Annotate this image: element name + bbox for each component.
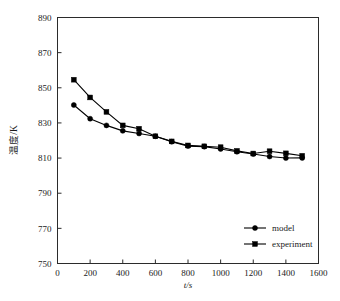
- y-tick-label: 890: [38, 13, 52, 23]
- data-point-model: [104, 123, 109, 128]
- data-point-experiment: [88, 95, 93, 100]
- x-axis-tick-labels: 02004006008001000120014001600: [55, 268, 328, 278]
- y-axis-title: 温度/K: [8, 125, 19, 155]
- x-tick-label: 800: [181, 268, 195, 278]
- legend-label-model: model: [272, 223, 295, 233]
- legend-circle-icon: [253, 226, 258, 231]
- legend-square-icon: [253, 242, 258, 247]
- x-tick-label: 400: [116, 268, 130, 278]
- data-point-experiment: [120, 123, 125, 128]
- data-point-model: [267, 154, 272, 159]
- temperature-vs-time-plot: 750770790810830850870890 020040060080010…: [0, 0, 340, 301]
- y-tick-label: 850: [38, 83, 52, 93]
- data-point-experiment: [104, 109, 109, 114]
- x-tick-label: 200: [83, 268, 97, 278]
- data-point-experiment: [218, 145, 223, 150]
- y-tick-label: 810: [38, 153, 52, 163]
- chart-container: 750770790810830850870890 020040060080010…: [0, 0, 340, 301]
- y-axis-tick-labels: 750770790810830850870890: [38, 13, 52, 269]
- y-axis-title-group: 温度/K: [8, 125, 19, 155]
- data-point-experiment: [251, 151, 256, 156]
- data-point-model: [71, 103, 76, 108]
- data-point-experiment: [186, 143, 191, 148]
- data-point-model: [137, 131, 142, 136]
- data-point-experiment: [235, 148, 240, 153]
- x-axis-title: t/s: [184, 280, 193, 290]
- legend: modelexperiment: [244, 223, 313, 249]
- x-axis-ticks: [58, 260, 319, 264]
- data-point-experiment: [71, 77, 76, 82]
- data-point-experiment: [202, 144, 207, 149]
- data-point-experiment: [300, 153, 305, 158]
- x-tick-label: 1200: [244, 268, 263, 278]
- x-tick-label: 1400: [277, 268, 296, 278]
- data-point-model: [120, 128, 125, 133]
- data-point-experiment: [169, 139, 174, 144]
- x-tick-label: 1000: [212, 268, 231, 278]
- y-tick-label: 770: [38, 224, 52, 234]
- y-tick-label: 750: [38, 259, 52, 269]
- x-tick-label: 600: [149, 268, 163, 278]
- x-tick-label: 0: [55, 268, 60, 278]
- data-point-experiment: [267, 149, 272, 154]
- x-tick-label: 1600: [310, 268, 329, 278]
- legend-label-experiment: experiment: [272, 239, 313, 249]
- data-point-experiment: [153, 134, 158, 139]
- y-tick-label: 870: [38, 48, 52, 58]
- y-axis-ticks: [58, 18, 62, 264]
- y-tick-label: 830: [38, 118, 52, 128]
- data-point-model: [88, 116, 93, 121]
- data-point-experiment: [283, 151, 288, 156]
- data-point-experiment: [137, 126, 142, 131]
- data-point-model: [283, 156, 288, 161]
- data-series-group: [71, 77, 304, 160]
- y-tick-label: 790: [38, 188, 52, 198]
